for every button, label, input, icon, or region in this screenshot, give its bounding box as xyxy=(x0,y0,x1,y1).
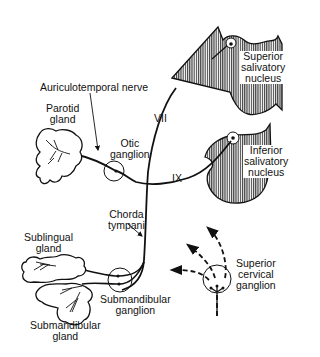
sympathetic-fibers xyxy=(172,228,226,316)
auriculotemporal-pointer xyxy=(90,93,98,150)
sublingual-gland-shape xyxy=(22,255,86,283)
label-nerve-vii: VII xyxy=(154,113,167,124)
label-nerve-ix: IX xyxy=(172,173,182,184)
nerve-vii-chorda-tympani xyxy=(122,88,176,290)
label-inferior-salivatory-nucleus: Inferior salivatory nucleus xyxy=(243,145,289,178)
label-sublingual-gland: Sublingual gland xyxy=(24,232,73,254)
label-text: nucleus xyxy=(241,73,285,84)
label-text: nucleus xyxy=(244,167,288,178)
label-auriculotemporal-nerve: Auriculotemporal nerve xyxy=(40,82,148,93)
label-otic-ganglion: Otic ganglion xyxy=(110,138,150,160)
otic-ganglion xyxy=(104,161,124,181)
superior-cervical-ganglion xyxy=(203,265,231,316)
submandibular-ganglion xyxy=(108,268,132,292)
label-superior-salivatory-nucleus: Superior salivatory nucleus xyxy=(240,51,286,84)
label-text: ganglion xyxy=(100,305,171,316)
label-submandibular-gland: Submandibular gland xyxy=(30,320,101,342)
label-text: tympani xyxy=(108,220,145,231)
parotid-gland-shape xyxy=(36,129,82,184)
label-text: ganglion xyxy=(110,149,150,160)
label-text: gland xyxy=(30,331,101,342)
label-text: VII xyxy=(154,113,167,124)
label-text: Auriculotemporal nerve xyxy=(40,82,148,93)
label-chorda-tympani: Chorda tympani xyxy=(108,209,145,231)
label-parotid-gland: Parotid gland xyxy=(46,103,79,125)
label-text: IX xyxy=(172,173,182,184)
label-superior-cervical-ganglion: Superior cervical ganglion xyxy=(236,258,276,291)
label-text: ganglion xyxy=(236,280,276,291)
label-submandibular-ganglion: Submandibular ganglion xyxy=(100,294,171,316)
label-text: gland xyxy=(46,114,79,125)
label-text: gland xyxy=(24,243,73,254)
